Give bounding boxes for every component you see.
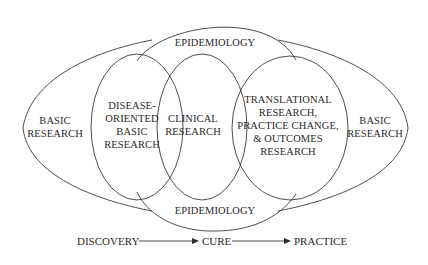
basic-research-right-label: BASIC RESEARCH <box>347 114 403 140</box>
flow-step-practice: PRACTICE <box>294 235 347 247</box>
disease-oriented-line3: BASIC <box>104 125 160 138</box>
translational-label: TRANSLATIONAL RESEARCH, PRACTICE CHANGE,… <box>237 93 338 158</box>
basic-research-right-line2: RESEARCH <box>347 127 403 140</box>
epidemiology-bottom-label: EPIDEMIOLOGY <box>175 204 256 217</box>
basic-research-left-line2: RESEARCH <box>27 127 83 140</box>
basic-research-left-line1: BASIC <box>27 114 83 127</box>
epidemiology-top-label: EPIDEMIOLOGY <box>175 36 256 49</box>
disease-oriented-line1: DISEASE- <box>104 99 160 112</box>
translational-line3: PRACTICE CHANGE, <box>237 119 338 132</box>
clinical-line1: CLINICAL <box>165 112 221 125</box>
flow-step-cure: CURE <box>202 235 231 247</box>
translational-line2: RESEARCH, <box>237 106 338 119</box>
translational-line5: RESEARCH <box>237 145 338 158</box>
basic-research-left-label: BASIC RESEARCH <box>27 114 83 140</box>
clinical-line2: RESEARCH <box>165 125 221 138</box>
basic-research-right-line1: BASIC <box>347 114 403 127</box>
flow-step-discovery: DISCOVERY <box>77 235 139 247</box>
clinical-label: CLINICAL RESEARCH <box>165 112 221 138</box>
flow-row: DISCOVERY CURE PRACTICE <box>0 232 428 252</box>
disease-oriented-label: DISEASE- ORIENTED BASIC RESEARCH <box>104 99 160 151</box>
disease-oriented-line4: RESEARCH <box>104 138 160 151</box>
disease-oriented-line2: ORIENTED <box>104 112 160 125</box>
translational-line4: & OUTCOMES <box>237 132 338 145</box>
translational-line1: TRANSLATIONAL <box>237 93 338 106</box>
